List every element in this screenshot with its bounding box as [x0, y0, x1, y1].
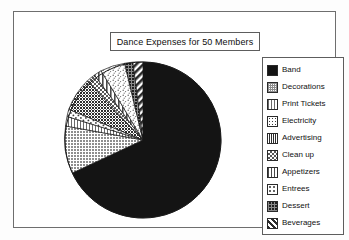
legend-item-decorations: Decorations — [267, 79, 340, 95]
legend-label: Entrees — [282, 185, 310, 193]
legend-item-entrees: Entrees — [267, 181, 340, 197]
pie-chart-svg — [62, 59, 224, 221]
legend-swatch-entrees-icon — [267, 184, 278, 195]
figure-frame: Dance Expenses for 50 Members — [13, 11, 336, 228]
legend-item-clean-up: Clean up — [267, 147, 340, 163]
legend-item-beverages: Beverages — [267, 215, 340, 231]
legend-swatch-clean-up-icon — [267, 150, 278, 161]
pie-chart-figure: Dance Expenses for 50 Members — [0, 0, 349, 240]
legend-label: Beverages — [282, 219, 320, 227]
legend-item-electricity: Electricity — [267, 113, 340, 129]
legend: Band Decorations Print Tickets Electrici… — [262, 57, 344, 235]
legend-label: Advertising — [282, 134, 322, 142]
legend-item-print-tickets: Print Tickets — [267, 96, 340, 112]
legend-swatch-appetizers-icon — [267, 167, 278, 178]
legend-item-appetizers: Appetizers — [267, 164, 340, 180]
legend-label: Print Tickets — [282, 100, 326, 108]
legend-label: Electricity — [282, 117, 316, 125]
page-title: Dance Expenses for 50 Members — [117, 37, 253, 47]
legend-swatch-decorations-icon — [267, 82, 278, 93]
legend-swatch-print-tickets-icon — [267, 99, 278, 110]
legend-label: Band — [282, 66, 301, 74]
legend-item-advertising: Advertising — [267, 130, 340, 146]
legend-item-band: Band — [267, 62, 340, 78]
legend-swatch-dessert-icon — [267, 201, 278, 212]
legend-label: Dessert — [282, 202, 310, 210]
chart-title-box: Dance Expenses for 50 Members — [110, 32, 260, 51]
legend-swatch-beverages-icon — [267, 218, 278, 229]
legend-item-dessert: Dessert — [267, 198, 340, 214]
pie-chart — [62, 59, 224, 221]
legend-label: Clean up — [282, 151, 314, 159]
legend-swatch-band-icon — [267, 65, 278, 76]
legend-swatch-electricity-icon — [267, 116, 278, 127]
legend-label: Appetizers — [282, 168, 320, 176]
legend-label: Decorations — [282, 83, 325, 91]
legend-swatch-advertising-icon — [267, 133, 278, 144]
